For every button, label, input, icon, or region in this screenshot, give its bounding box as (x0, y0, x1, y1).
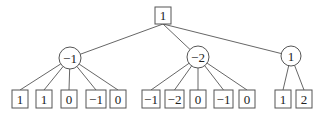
edge-n3-to-leaf (295, 65, 304, 90)
leaf-node: −2 (165, 90, 184, 108)
chance-node-n1: −1 (59, 47, 81, 69)
edge-n1-to-leaf (69, 69, 70, 90)
edge-n1-to-leaf (77, 67, 96, 90)
leaf-value: −1 (144, 92, 158, 107)
leaf-node: −1 (142, 90, 160, 108)
chance-node-n3: 1 (281, 46, 301, 66)
leaf-node: 1 (36, 90, 52, 108)
edge-n1-to-leaf (44, 67, 63, 90)
node-value: −2 (191, 50, 205, 65)
leaf-value: 0 (66, 92, 73, 107)
leaf-value: −2 (168, 92, 182, 107)
edge-root-to-n3 (163, 24, 281, 54)
leaf-value: −1 (89, 92, 103, 107)
edge-n2-to-leaf (151, 63, 189, 90)
root-value: 1 (160, 8, 167, 23)
leaf-node: 1 (12, 90, 28, 108)
chance-node-n2: −2 (187, 46, 209, 68)
leaf-node: 1 (275, 90, 291, 108)
node-value: −1 (63, 51, 77, 66)
leaf-value: 0 (244, 92, 251, 107)
leaf-value: 1 (17, 92, 24, 107)
leaf-node: 0 (190, 90, 206, 108)
leaf-node: 0 (239, 90, 255, 108)
node-value: 1 (288, 49, 295, 64)
leaf-node: 2 (296, 90, 312, 108)
leaf-value: 2 (301, 92, 308, 107)
leaf-value: 0 (195, 92, 202, 107)
leaf-node: 0 (110, 90, 126, 108)
leaf-value: 1 (41, 92, 48, 107)
root-node: 1 (155, 7, 171, 24)
leaf-node: 0 (61, 90, 77, 108)
leaf-value: 1 (280, 92, 287, 107)
edge-n3-to-leaf (283, 66, 289, 90)
edge-n2-to-leaf (175, 66, 192, 90)
leaf-value: 0 (115, 92, 122, 107)
edge-n2-to-leaf (205, 66, 224, 90)
leaf-node: −1 (214, 90, 233, 108)
leaf-value: −1 (217, 92, 231, 107)
leaf-node: −1 (86, 90, 106, 108)
tree-nodes: −1110−10−2−1−20−101121 (12, 7, 312, 108)
edge-root-to-n1 (80, 24, 163, 54)
game-tree-diagram: −1110−10−2−1−20−101121 (0, 0, 323, 115)
